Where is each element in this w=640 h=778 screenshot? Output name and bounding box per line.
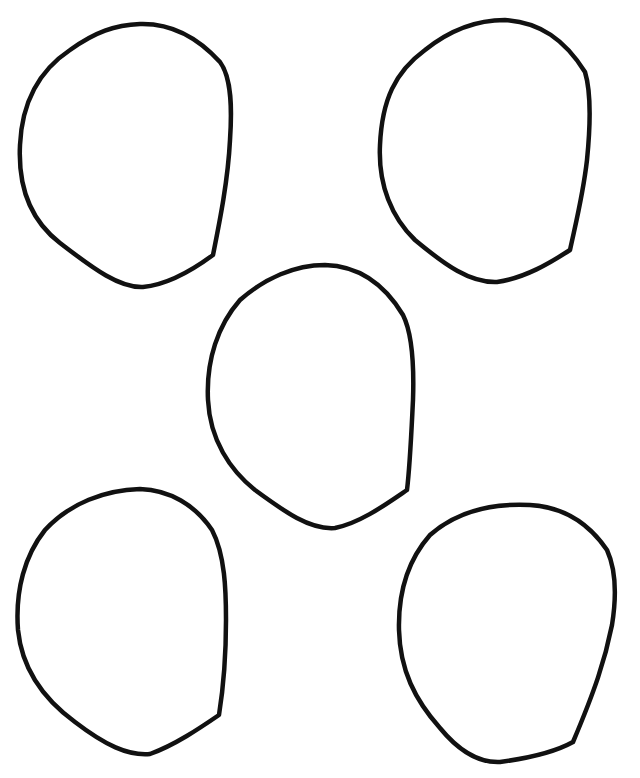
outline-shape-center	[208, 265, 414, 528]
outline-shape-bottom-right	[399, 505, 615, 762]
outline-shape-top-left	[20, 24, 231, 287]
shapes-layer	[17, 20, 614, 762]
outline-shape-top-right	[380, 20, 590, 282]
outline-shape-bottom-left	[17, 489, 226, 754]
drawing-canvas	[0, 0, 640, 778]
